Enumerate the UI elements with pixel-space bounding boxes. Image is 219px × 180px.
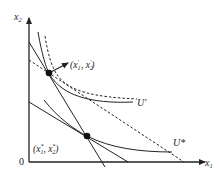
lower-point-label: (x1*, x2*) bbox=[33, 143, 59, 155]
u-prime-label: U′ bbox=[137, 97, 147, 108]
u-star-label: U* bbox=[173, 137, 185, 148]
indifference-diagram: x2 x1 0 (x1′ , x2′) (x1*, x2*) U′ U* bbox=[0, 0, 219, 180]
y-axis-label: x2 bbox=[13, 11, 22, 23]
x-axis-label: x1 bbox=[204, 157, 213, 169]
upper-optimum-point bbox=[46, 70, 53, 77]
lower-optimum-point bbox=[84, 133, 91, 140]
indifference-curve-u-star bbox=[44, 100, 172, 152]
origin-label: 0 bbox=[19, 156, 24, 167]
upper-point-label: (x1′ , x2′) bbox=[70, 59, 95, 71]
